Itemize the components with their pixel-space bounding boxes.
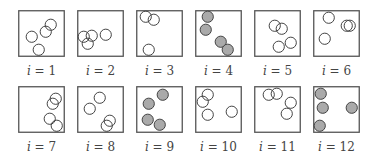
panel-box (136, 86, 183, 133)
panel-label: i = 2 (77, 64, 124, 78)
filled-circle (142, 114, 153, 125)
panel-label: i = 7 (18, 140, 65, 154)
panel-5: i = 5 (254, 10, 301, 57)
panel-box (254, 86, 301, 133)
label-value: = 2 (90, 64, 115, 78)
panel-label: i = 4 (195, 64, 242, 78)
panel-label: i = 8 (77, 140, 124, 154)
filled-circle (202, 11, 213, 22)
panel-label: i = 10 (195, 140, 242, 154)
panel-label: i = 6 (313, 64, 360, 78)
panel-8: i = 8 (77, 86, 124, 133)
panel-label: i = 1 (18, 64, 65, 78)
panel-11: i = 11 (254, 86, 301, 133)
panel-3: i = 3 (136, 10, 183, 57)
panel-box (18, 86, 65, 133)
panel-2: i = 2 (77, 10, 124, 57)
filled-circle (143, 98, 154, 109)
panel-box (254, 10, 301, 57)
panel-box (313, 86, 360, 133)
filled-circle (200, 24, 211, 35)
label-value: = 3 (149, 64, 174, 78)
filled-circle (154, 119, 165, 130)
label-value: = 5 (267, 64, 292, 78)
label-value: = 11 (263, 140, 296, 154)
panel-label: i = 5 (254, 64, 301, 78)
panel-box (136, 10, 183, 57)
panel-label: i = 12 (313, 140, 360, 154)
panel-label: i = 9 (136, 140, 183, 154)
panel-box (195, 10, 242, 57)
panel-4: i = 4 (195, 10, 242, 57)
panel-1: i = 1 (18, 10, 65, 57)
filled-circle (157, 89, 168, 100)
filled-circle (315, 88, 326, 99)
label-value: = 7 (31, 140, 56, 154)
label-value: = 4 (208, 64, 233, 78)
panel-6: i = 6 (313, 10, 360, 57)
panel-box (77, 86, 124, 133)
filled-circle (317, 102, 328, 113)
panel-7: i = 7 (18, 86, 65, 133)
label-value: = 1 (31, 64, 56, 78)
panel-box (18, 10, 65, 57)
label-value: = 12 (322, 140, 355, 154)
label-value: = 10 (204, 140, 237, 154)
label-value: = 9 (149, 140, 174, 154)
panel-box (195, 86, 242, 133)
panel-label: i = 3 (136, 64, 183, 78)
filled-circle (346, 102, 357, 113)
label-value: = 6 (326, 64, 351, 78)
panel-12: i = 12 (313, 86, 360, 133)
panel-9: i = 9 (136, 86, 183, 133)
panel-10: i = 10 (195, 86, 242, 133)
label-value: = 8 (90, 140, 115, 154)
panel-box (313, 10, 360, 57)
filled-circle (314, 120, 325, 131)
panel-label: i = 11 (254, 140, 301, 154)
filled-circle (222, 44, 233, 55)
panel-box (77, 10, 124, 57)
